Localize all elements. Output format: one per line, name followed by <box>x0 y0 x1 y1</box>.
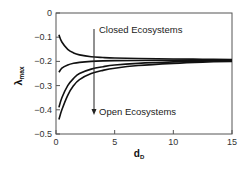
x-axis-ticks: 051015 <box>53 130 237 147</box>
x-axis-title: dD <box>134 148 145 160</box>
y-tick-label: 0 <box>47 8 52 18</box>
y-tick-label: −0.1 <box>34 32 52 42</box>
y-tick-label: −0.5 <box>34 129 52 139</box>
series-line-3 <box>59 61 232 108</box>
line-chart: 0−0.1−0.2−0.3−0.4−0.5 051015 Closed Ecos… <box>0 0 250 171</box>
series-line-1 <box>59 35 232 60</box>
arrow-down-icon <box>92 109 97 115</box>
closed-ecosystems-label: Closed Ecosystems <box>99 24 183 35</box>
y-axis-title: λmax <box>12 66 25 86</box>
y-tick-label: −0.3 <box>34 81 52 91</box>
y-tick-label: −0.4 <box>34 105 52 115</box>
x-tick-label: 10 <box>168 137 178 147</box>
x-tick-label: 5 <box>112 137 117 147</box>
y-tick-label: −0.2 <box>34 56 52 66</box>
x-tick-label: 0 <box>53 137 58 147</box>
x-tick-label: 15 <box>227 137 237 147</box>
open-ecosystems-label: Open Ecosystems <box>99 106 176 117</box>
